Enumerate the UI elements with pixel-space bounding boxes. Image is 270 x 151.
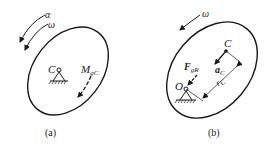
inertia-force-arrow-icon — [188, 75, 197, 85]
caption-b: (b) — [208, 127, 220, 139]
omega-arrow-b-icon — [180, 15, 200, 30]
diagram-canvas: α ω C MgC (a) ω C aC — [0, 0, 270, 151]
distance-dimension — [186, 51, 240, 101]
figure-b: ω C aC O FgR rC (b) — [148, 4, 270, 139]
accel-label: aC — [215, 64, 225, 77]
figure-a: α ω C MgC (a) — [11, 9, 125, 139]
omega-label-a: ω — [48, 19, 55, 30]
moment-dashed-arrow-icon — [78, 76, 91, 97]
center-label-b: C — [224, 37, 232, 49]
pivot-label-o: O — [175, 80, 183, 92]
caption-a: (a) — [45, 127, 56, 139]
omega-label-b: ω — [202, 8, 209, 19]
moment-label: MgC — [80, 63, 99, 77]
inertia-force-label: FgR — [183, 61, 199, 74]
rigid-body-b — [148, 4, 270, 136]
center-label-a: C — [48, 63, 56, 75]
accel-arrow-icon — [215, 51, 226, 64]
